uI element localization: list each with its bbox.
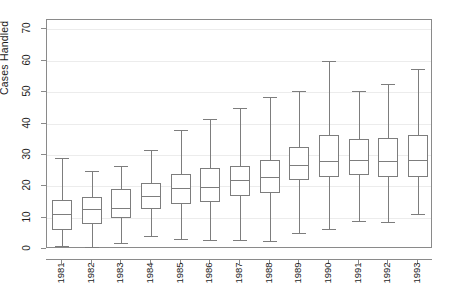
y-tick-label: 50 bbox=[14, 85, 40, 97]
y-tick-label: 70 bbox=[14, 22, 40, 34]
y-tick-mark bbox=[41, 248, 46, 249]
plot-area bbox=[46, 19, 432, 248]
y-tick-label: 0 bbox=[14, 242, 40, 254]
whisker-cap-high bbox=[411, 69, 425, 70]
x-tick-label: 1993 bbox=[400, 266, 434, 280]
box-1993 bbox=[47, 20, 433, 249]
whisker-cap-low bbox=[411, 214, 425, 215]
y-tick-label: 40 bbox=[14, 117, 40, 129]
box-iqr bbox=[408, 135, 428, 177]
median-line bbox=[408, 160, 428, 161]
y-axis-label-text: Cases Handled bbox=[0, 0, 10, 95]
y-tick-label: 10 bbox=[14, 211, 40, 223]
y-tick-label: 60 bbox=[14, 54, 40, 66]
y-tick-label: 30 bbox=[14, 148, 40, 160]
y-tick-label: 20 bbox=[14, 179, 40, 191]
boxplot-chart: Cases Handled 010203040506070 1981198219… bbox=[0, 0, 450, 305]
